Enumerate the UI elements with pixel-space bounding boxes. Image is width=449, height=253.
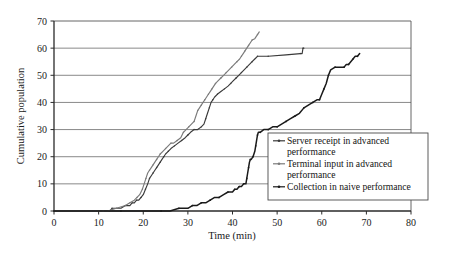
series-marker [209,107,210,108]
series-marker [149,178,150,179]
series-marker [197,110,198,111]
series-marker [244,50,245,51]
series-marker [246,178,248,180]
legend-label-1-line2: performance [287,146,335,157]
legend-label-2-line2: performance [287,169,335,180]
series-marker [251,39,252,40]
series-marker [181,140,182,141]
legend-marker-dot-1 [278,140,281,143]
series-marker [208,94,209,95]
series-marker [241,56,242,57]
legend-marker-dot-3 [278,186,281,189]
series-marker [187,134,188,135]
series-marker [188,126,189,127]
series-marker [160,153,161,154]
y-tick-label: 20 [37,151,47,162]
series-marker [319,99,321,101]
x-tick-label: 60 [317,217,327,228]
x-tick-label: 40 [228,217,238,228]
series-marker [312,102,314,104]
y-tick-label: 70 [37,16,47,27]
series-marker [212,99,213,100]
series-marker [205,118,206,119]
legend-label-3: Collection in naive performance [287,181,411,192]
series-marker [191,205,193,207]
series-marker [193,129,194,130]
series-marker [170,142,171,143]
y-tick-label: 40 [37,97,47,108]
series-marker [231,66,232,67]
series-marker [238,186,240,188]
series-marker [140,197,141,198]
series-marker [53,210,55,212]
y-tick-label: 50 [37,70,47,81]
x-tick-label: 30 [183,217,193,228]
series-marker [251,61,252,62]
series-marker [243,183,245,185]
series-marker [252,156,254,158]
series-marker [145,189,146,190]
chart-figure: 01020304050607080 010203040506070 Time (… [0,0,449,253]
x-tick-label: 50 [272,217,282,228]
series-marker [142,189,143,190]
series-marker [302,47,303,48]
series-marker [285,121,287,123]
series-marker [116,208,117,209]
series-marker [201,126,202,127]
series-marker [357,55,359,57]
series-marker [224,88,225,89]
series-marker [149,170,150,171]
series-marker [156,159,157,160]
y-tick-label: 0 [42,206,47,217]
cumulative-population-line-chart: 01020304050607080 010203040506070 Time (… [0,0,449,253]
series-marker [201,104,202,105]
series-marker [111,208,112,209]
series-marker [168,151,169,152]
series-marker [176,140,177,141]
legend-label-2: Terminal input in advanced [287,158,392,169]
series-marker [174,145,175,146]
x-tick-label: 70 [361,217,371,228]
series-marker [211,88,212,89]
series-marker [220,77,221,78]
series-marker [352,58,354,60]
series-marker [235,77,236,78]
series-marker [120,210,122,212]
series-marker [257,56,258,57]
series-marker [246,66,247,67]
series-marker [241,72,242,73]
series-marker [193,121,194,122]
y-tick-label: 60 [37,43,47,54]
series-marker [348,64,350,66]
series-marker [227,191,229,193]
series-marker [152,172,153,173]
x-tick-label: 0 [52,217,57,228]
legend-marker-dot-2 [278,163,281,166]
series-marker [343,66,345,68]
series-marker [152,164,153,165]
y-tick-label: 10 [37,178,47,189]
series-marker [165,148,166,149]
x-axis-label: Time (min) [208,230,256,242]
x-tick-label: 20 [138,217,148,228]
chart-legend: Server receipt in advancedperformanceTer… [268,133,428,200]
series-marker [183,132,184,133]
series-marker [328,74,330,76]
series-marker [217,94,218,95]
series-marker [163,156,164,157]
series-marker [204,99,205,100]
series-marker [268,56,269,57]
series-marker [160,210,162,212]
legend-label-1: Server receipt in advanced [287,135,389,146]
x-tick-label: 80 [406,217,416,228]
series-marker [259,131,261,133]
chart-background [0,0,449,253]
series-marker [226,72,227,73]
series-marker [323,88,325,90]
series-marker [218,197,220,199]
series-marker [178,207,180,209]
series-marker [257,134,259,136]
series-marker [334,66,336,68]
series-marker [267,129,269,131]
series-marker [250,159,252,161]
